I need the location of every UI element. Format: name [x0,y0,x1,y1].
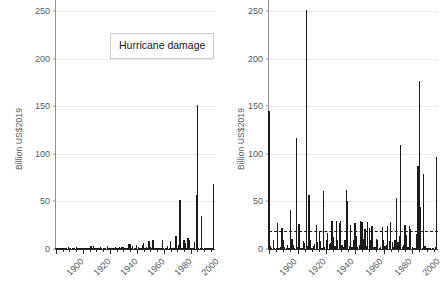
x-tickmark-1935 [319,249,320,252]
x-tickmark-1925 [305,249,306,252]
y-tickmark-150 [53,106,57,107]
gridline-y-150 [56,106,215,107]
y-tickmark-250 [266,11,270,12]
x-tickmark-1980 [384,249,385,254]
y-tickmark-200 [266,58,270,59]
x-tick-label-1980: 1980 [392,256,413,277]
reference-line-mean [269,231,438,232]
y-tick-label-200: 200 [248,54,263,64]
y-tickmark-100 [53,153,57,154]
x-tickmark-1990 [398,249,399,252]
x-tick-label-1920: 1920 [306,256,327,277]
x-tickmark-1905 [276,249,277,252]
gridline-y-250 [56,11,215,12]
y-tick-label-0: 0 [258,244,263,254]
gridline-y-100 [269,154,438,155]
x-tickmark-1965 [144,249,145,252]
x-tickmark-1945 [333,249,334,252]
x-tickmark-1960 [355,249,356,254]
bar [179,200,180,249]
x-tickmark-2005 [197,249,198,252]
y-tick-label-250: 250 [248,6,263,16]
bar [201,216,202,249]
x-tick-label-1960: 1960 [363,256,384,277]
x-tick-label-2000: 2000 [199,256,220,277]
hurricane-damage-figure: Billion US$2019 050100150200250190019201… [0,0,445,298]
x-tickmark-1900 [269,249,270,254]
x-tickmark-1955 [130,249,131,252]
x-tickmark-1955 [348,249,349,252]
bar [396,198,397,249]
x-tickmark-1910 [283,249,284,252]
bar [423,174,424,249]
y-tick-label-50: 50 [253,196,263,206]
y-tick-label-150: 150 [248,101,263,111]
y-tick-label-250: 250 [35,6,50,16]
x-tickmark-1975 [157,249,158,252]
y-tick-label-50: 50 [40,196,50,206]
y-tickmark-200 [53,58,57,59]
x-tickmark-2010 [427,249,428,252]
x-tickmark-1995 [405,249,406,252]
x-tickmark-1985 [171,249,172,252]
gridline-y-200 [269,59,438,60]
y-tick-label-0: 0 [45,244,50,254]
bar [323,191,324,249]
x-tickmark-1945 [117,249,118,252]
x-tickmark-1930 [96,249,97,252]
gridline-y-50 [269,201,438,202]
x-tickmark-1970 [150,249,151,252]
x-tickmark-1975 [376,249,377,252]
x-tick-label-1940: 1940 [118,256,139,277]
x-tickmark-1910 [69,249,70,252]
x-tick-label-1900: 1900 [277,256,298,277]
bar [371,226,372,249]
x-tick-label-1940: 1940 [335,256,356,277]
y-tickmark-250 [53,11,57,12]
x-tickmark-2015 [211,249,212,252]
x-tickmark-1995 [184,249,185,252]
gridline-y-150 [269,106,438,107]
x-tickmark-1930 [312,249,313,252]
annotation-hurricane-damage: Hurricane damage [110,33,214,59]
gridline-y-250 [269,11,438,12]
x-tick-label-1900: 1900 [64,256,85,277]
y-tickmark-50 [53,201,57,202]
x-tickmark-1900 [56,249,57,254]
x-tick-label-2000: 2000 [421,256,442,277]
x-tick-label-1960: 1960 [145,256,166,277]
bar [420,207,421,249]
x-tick-label-1980: 1980 [172,256,193,277]
x-tickmark-1925 [90,249,91,252]
bar [350,225,351,249]
bar [306,10,307,249]
x-tickmark-1920 [298,249,299,254]
x-tickmark-1915 [290,249,291,252]
x-tickmark-1915 [76,249,77,252]
plot-area-right: 050100150200250190019201940196019802000 [268,0,438,250]
x-tickmark-1970 [369,249,370,252]
y-axis-label-right: Billion US$2019 [236,108,246,170]
x-tickmark-1965 [362,249,363,252]
x-tickmark-1920 [83,249,84,254]
y-axis-label-left: Billion US$2019 [14,108,24,170]
x-tickmark-2010 [204,249,205,252]
x-tickmark-2000 [191,249,192,254]
gridline-y-50 [56,201,215,202]
x-tickmark-1905 [63,249,64,252]
y-tickmark-150 [266,106,270,107]
panel-hurricane-damage: Billion US$2019 050100150200250190019201… [0,0,222,298]
bar [298,224,299,249]
y-tick-label-200: 200 [35,54,50,64]
bar [268,111,269,249]
bar [197,105,198,249]
bar [436,157,437,249]
x-tickmark-1940 [110,249,111,254]
bar [400,145,401,249]
panel-normalized-damage: Billion US$2019 050100150200250190019201… [222,0,445,298]
x-tickmark-1990 [177,249,178,252]
y-tick-label-100: 100 [248,149,263,159]
x-tickmark-1950 [123,249,124,252]
x-tickmark-1980 [164,249,165,254]
y-tick-label-150: 150 [35,101,50,111]
